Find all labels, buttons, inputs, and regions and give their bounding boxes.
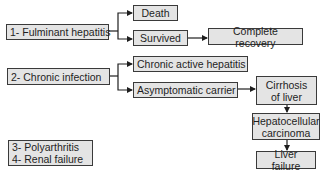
- node-label-line1: 3- Polyarthritis: [12, 141, 79, 153]
- node-label: 2- Chronic infection: [11, 71, 101, 83]
- node-liver-failure: Liver failure: [256, 151, 316, 169]
- edge-chronic-asymptomatic: [118, 76, 132, 90]
- node-label: Asymptomatic carrier: [137, 84, 236, 96]
- node-label: Survived: [140, 32, 181, 44]
- node-label: Death: [141, 7, 169, 19]
- node-label-line2: carcinoma: [262, 127, 310, 139]
- node-death: Death: [133, 5, 178, 21]
- node-cirrhosis-of-liver: Cirrhosis of liver: [256, 76, 317, 105]
- node-asymptomatic-carrier: Asymptomatic carrier: [133, 82, 238, 98]
- node-label-line1: Hepatocellular: [252, 115, 319, 127]
- node-survived: Survived: [133, 30, 188, 46]
- node-label: Chronic active hepatitis: [137, 58, 246, 70]
- node-label: Complete recovery: [212, 25, 299, 49]
- node-hepatocellular-carcinoma: Hepatocellular carcinoma: [252, 113, 320, 140]
- edge-fulminant-death: [118, 13, 132, 31]
- node-label: 1- Fulminant hepatitis: [10, 26, 110, 38]
- node-other-complications: 3- Polyarthritis 4- Renal failure: [8, 140, 93, 166]
- node-label-line2: of liver: [271, 91, 302, 103]
- node-fulminant-hepatitis: 1- Fulminant hepatitis: [6, 24, 109, 40]
- edge-fulminant-survived: [118, 31, 132, 39]
- node-chronic-active-hepatitis: Chronic active hepatitis: [133, 56, 248, 72]
- node-label-line1: Cirrhosis: [266, 79, 307, 91]
- hepatitis-outcome-diagram: 1- Fulminant hepatitis Death Survived Co…: [0, 0, 336, 182]
- node-chronic-infection: 2- Chronic infection: [7, 68, 110, 85]
- node-label-line2: 4- Renal failure: [12, 153, 83, 165]
- edge-chronic-active: [118, 64, 132, 76]
- node-label: Liver failure: [260, 148, 312, 172]
- node-complete-recovery: Complete recovery: [208, 28, 303, 45]
